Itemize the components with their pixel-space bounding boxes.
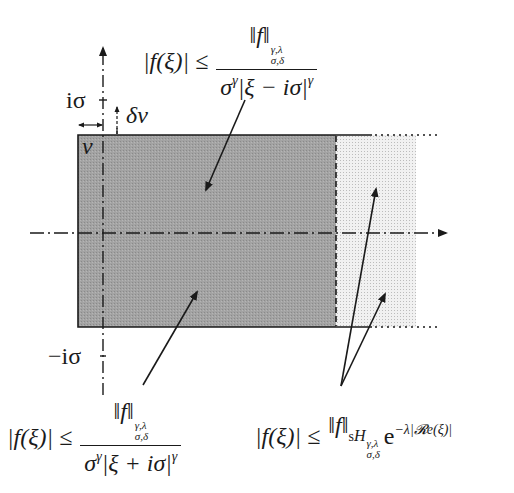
upper-formula-fraction: ‖f‖γ,λσ,δ σγ|ξ − iσ|γ bbox=[216, 22, 317, 101]
upper-formula-denominator: σγ|ξ − iσ|γ bbox=[216, 70, 317, 101]
upper-bound-formula: |f(ξ)| ≤ ‖f‖γ,λσ,δ σγ|ξ − iσ|γ bbox=[143, 22, 317, 101]
lower-right-exponential: e−λ|𝓡e(ξ)| bbox=[384, 422, 452, 450]
upper-formula-lhs: |f(ξ)| ≤ bbox=[143, 48, 208, 75]
label-nu: ν bbox=[82, 134, 93, 158]
lower-left-formula-denominator: σγ|ξ + iσ|γ bbox=[80, 446, 181, 477]
light-region bbox=[336, 135, 416, 327]
label-minus-i-sigma: −iσ bbox=[48, 344, 81, 368]
lower-left-bound-formula: |f(ξ)| ≤ ‖f‖γ,λσ,δ σγ|ξ + iσ|γ bbox=[7, 398, 181, 477]
lower-right-norm: ‖f‖sHγ,λσ,δ bbox=[328, 412, 379, 460]
lower-right-bound-formula: |f(ξ)| ≤ ‖f‖sHγ,λσ,δ e−λ|𝓡e(ξ)| bbox=[255, 412, 452, 460]
dark-region bbox=[78, 135, 336, 327]
label-i-sigma: iσ bbox=[66, 88, 86, 112]
lower-left-formula-lhs: |f(ξ)| ≤ bbox=[7, 424, 72, 451]
lower-left-formula-numerator: ‖f‖γ,λσ,δ bbox=[110, 398, 152, 445]
label-delta-nu: δν bbox=[126, 103, 148, 127]
lower-right-formula-lhs: |f(ξ)| ≤ bbox=[255, 423, 320, 450]
upper-formula-numerator: ‖f‖γ,λσ,δ bbox=[246, 22, 288, 69]
lower-left-formula-fraction: ‖f‖γ,λσ,δ σγ|ξ + iσ|γ bbox=[80, 398, 181, 477]
